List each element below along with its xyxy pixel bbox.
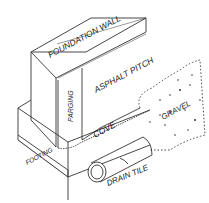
label-asphalt-pitch: ASPHALT PITCH: [91, 55, 156, 96]
wall-left-face: [31, 52, 56, 147]
label-parging: PARGING: [67, 90, 74, 122]
foundation-diagram: FOUNDATION WALL ASPHALT PITCH PARGING CO…: [0, 0, 209, 203]
label-cove: COVE: [91, 119, 117, 139]
gravel: [139, 60, 205, 150]
label-gravel: GRAVEL: [160, 99, 192, 122]
